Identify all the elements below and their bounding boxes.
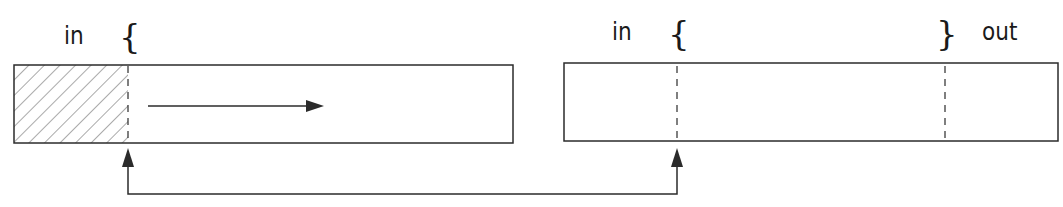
right-buffer-box — [564, 63, 1058, 141]
left-buffer — [14, 65, 513, 143]
arrowhead-up-icon — [671, 148, 683, 167]
connector-arrow — [122, 148, 683, 194]
left-buffer-hatched-region — [14, 65, 128, 143]
buffer-diagram: in { in { } out — [0, 0, 1063, 207]
right-in-label: in — [612, 18, 632, 46]
left-open-brace: { — [119, 16, 141, 56]
arrowhead-up-icon — [122, 148, 134, 167]
left-in-label: in — [64, 22, 84, 50]
right-close-brace: } — [936, 13, 958, 53]
flow-arrow-icon — [148, 100, 324, 112]
right-out-label: out — [982, 18, 1017, 46]
right-buffer — [564, 63, 1058, 141]
right-open-brace: { — [668, 13, 690, 53]
